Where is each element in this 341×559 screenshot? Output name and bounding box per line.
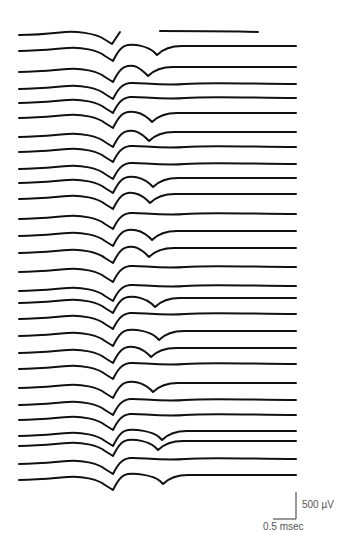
trace-stack bbox=[19, 31, 296, 490]
trace-7 bbox=[19, 131, 296, 147]
trace-3 bbox=[19, 66, 296, 82]
trace-24 bbox=[19, 414, 296, 430]
trace-segment bbox=[160, 31, 258, 32]
trace-13 bbox=[19, 230, 296, 246]
trace-2 bbox=[19, 45, 296, 61]
trace-12 bbox=[19, 213, 296, 229]
trace-9 bbox=[19, 163, 296, 179]
trace-20 bbox=[19, 347, 296, 363]
trace-26 bbox=[19, 440, 296, 456]
waveform-figure bbox=[0, 0, 341, 559]
trace-21 bbox=[19, 363, 296, 379]
trace-1 bbox=[19, 32, 120, 44]
trace-11 bbox=[19, 193, 296, 209]
trace-19 bbox=[19, 330, 296, 346]
trace-14 bbox=[19, 247, 296, 263]
scale-bar-time-label: 0.5 msec bbox=[263, 521, 304, 532]
trace-15 bbox=[19, 266, 296, 282]
trace-10 bbox=[19, 177, 296, 193]
trace-28 bbox=[19, 474, 296, 490]
trace-6 bbox=[19, 112, 296, 128]
trace-18 bbox=[19, 313, 296, 329]
trace-17 bbox=[19, 297, 296, 313]
scale-bar bbox=[273, 492, 296, 519]
trace-22 bbox=[19, 382, 296, 398]
scale-bar-voltage-label: 500 µV bbox=[302, 499, 334, 510]
trace-23 bbox=[19, 399, 296, 415]
trace-5 bbox=[19, 97, 296, 113]
trace-8 bbox=[19, 146, 296, 162]
trace-27 bbox=[19, 458, 296, 474]
